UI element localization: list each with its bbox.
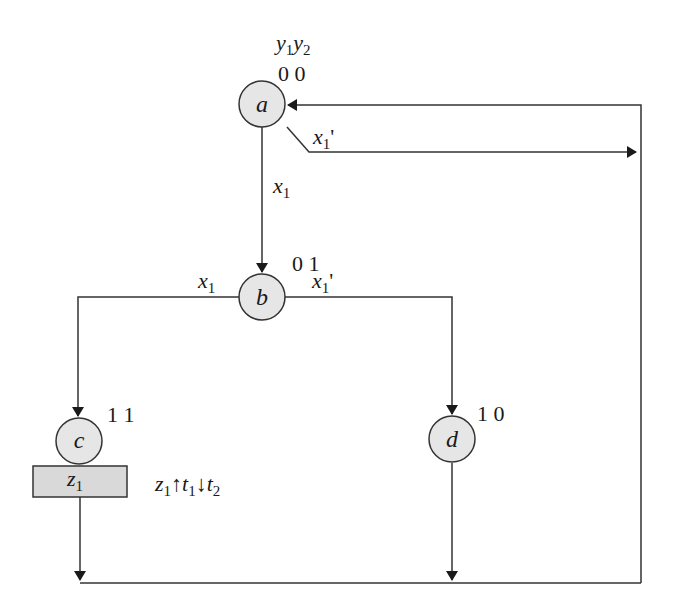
edge-a-x1prime: [287, 127, 636, 152]
state-diagram: [0, 0, 674, 612]
state-a-code: 0 0: [278, 63, 306, 85]
cond-b-d: x1': [312, 270, 333, 296]
state-b-label: b: [239, 285, 285, 309]
state-a-label: a: [239, 92, 285, 116]
edge-b-c: [78, 297, 239, 416]
state-d-label: d: [429, 427, 475, 451]
state-c-label: c: [56, 428, 102, 452]
state-d-code: 1 0: [477, 403, 505, 425]
edge-return-a: [288, 105, 641, 583]
cond-a-x1prime: x1': [313, 126, 334, 152]
header-state-vars: y1y2: [276, 32, 311, 58]
edge-b-d: [285, 297, 452, 414]
action-note: z1↑t1↓t2: [155, 473, 220, 499]
up-arrow-icon: ↑: [171, 471, 182, 496]
cond-b-c: x1: [198, 270, 215, 296]
output-z1: z1: [67, 468, 83, 494]
down-arrow-icon: ↓: [196, 471, 207, 496]
cond-a-b: x1: [273, 175, 290, 201]
state-c-code: 1 1: [107, 404, 135, 426]
